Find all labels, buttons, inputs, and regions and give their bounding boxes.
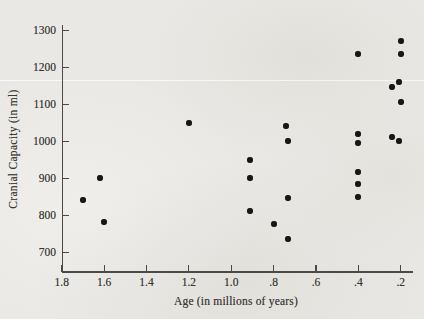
data-point — [80, 197, 86, 203]
data-point — [355, 181, 361, 187]
data-point — [101, 219, 107, 225]
y-tick-mark — [62, 178, 69, 179]
y-tick-label: 1100 — [20, 98, 56, 111]
x-tick-mark — [358, 265, 359, 272]
data-point — [247, 208, 253, 214]
y-tick-mark — [62, 215, 69, 216]
x-tick-mark — [104, 265, 105, 272]
data-point — [398, 99, 404, 105]
data-point — [396, 79, 402, 85]
data-point — [389, 84, 395, 90]
data-point — [396, 138, 402, 144]
x-tick-mark — [315, 265, 316, 272]
data-point — [398, 51, 404, 57]
y-tick-mark — [62, 67, 69, 68]
x-tick-mark — [231, 265, 232, 272]
y-tick-label: 1300 — [20, 24, 56, 37]
data-point — [186, 120, 192, 126]
x-tick-mark — [188, 265, 189, 272]
x-tick-label: 1.4 — [129, 276, 163, 288]
data-point — [389, 134, 395, 140]
data-point — [355, 169, 361, 175]
y-tick-mark — [62, 104, 69, 105]
data-point — [285, 236, 291, 242]
y-tick-mark — [62, 141, 69, 142]
y-tick-label: 1000 — [20, 135, 56, 148]
x-tick-mark — [146, 265, 147, 272]
x-axis-line — [62, 271, 413, 273]
data-point — [271, 221, 277, 227]
x-tick-label: .6 — [299, 276, 333, 288]
y-tick-mark — [62, 252, 69, 253]
data-point — [247, 157, 253, 163]
y-tick-label: 700 — [20, 246, 56, 259]
x-tick-mark — [273, 265, 274, 272]
data-point — [247, 175, 253, 181]
y-tick-label: 800 — [20, 209, 56, 222]
x-tick-label: 1.2 — [172, 276, 206, 288]
y-axis-line — [62, 25, 64, 273]
data-point — [285, 195, 291, 201]
y-tick-label: 1200 — [20, 61, 56, 74]
data-point — [283, 123, 289, 129]
x-tick-mark — [61, 265, 62, 272]
data-point — [355, 194, 361, 200]
x-tick-label: .4 — [341, 276, 375, 288]
data-point — [97, 175, 103, 181]
y-tick-mark — [62, 30, 69, 31]
x-tick-label: .8 — [257, 276, 291, 288]
x-tick-mark — [400, 265, 401, 272]
scan-artifact-line — [0, 80, 424, 81]
x-tick-label: 1.0 — [214, 276, 248, 288]
y-axis-title: Cranial Capacity (in ml) — [7, 89, 19, 208]
x-tick-label: .2 — [384, 276, 418, 288]
data-point — [398, 38, 404, 44]
data-point — [355, 140, 361, 146]
data-point — [355, 51, 361, 57]
x-axis-title: Age (in millions of years) — [174, 295, 298, 307]
y-tick-label: 900 — [20, 172, 56, 185]
scanned-scatter-plot-figure: Cranial Capacity (in ml) Age (in million… — [0, 0, 424, 319]
x-tick-label: 1.6 — [87, 276, 121, 288]
x-tick-label: 1.8 — [45, 276, 79, 288]
data-point — [285, 138, 291, 144]
data-point — [355, 131, 361, 137]
